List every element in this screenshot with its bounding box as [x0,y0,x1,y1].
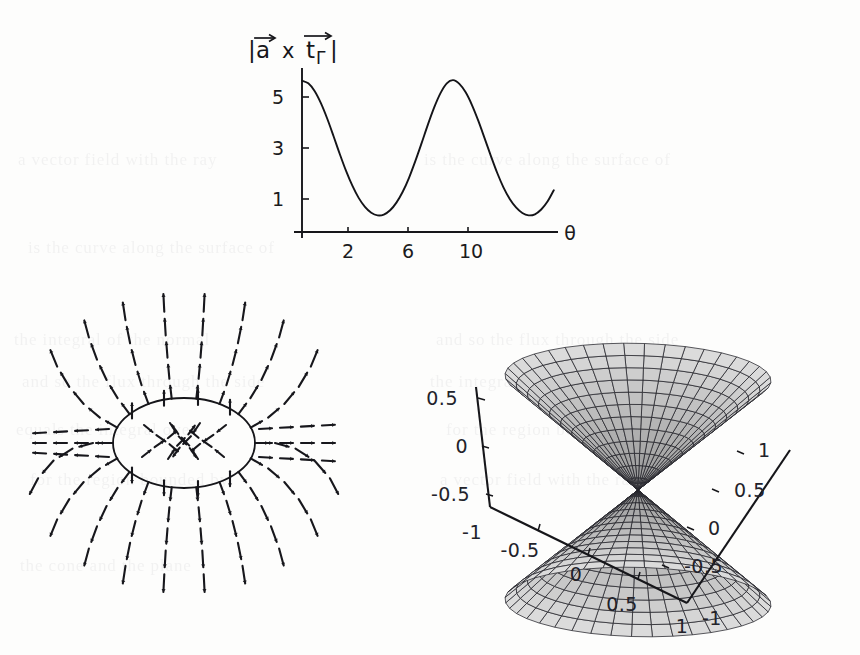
mesh-quad [606,554,626,561]
mesh-quad [631,417,642,429]
mesh-quad [612,542,629,549]
vector-arrow-head [166,518,170,521]
vector-arrow-head [311,424,314,428]
vector-arrow-head [165,342,169,345]
mesh-quad [632,624,653,637]
vector-arrow-head [96,454,99,458]
vector-arrow-head [228,484,232,487]
y-tick-label: 5 [272,86,284,108]
plot-title-vector-t: t [306,37,315,63]
y-tick-label: 3 [272,137,284,159]
mesh-quad [584,344,607,357]
surface-3d-svg: 0.5 0 -0.5 -1 -0.5 0 0.5 1 -1 -0.5 0 0.5… [390,285,860,655]
vector-arrow-head [290,425,293,429]
x-axis-label-theta: θ [564,222,576,244]
mesh-quad [641,529,654,536]
ghost-line: a vector field with the ray [18,150,217,170]
x-tick-label: 2 [342,240,354,262]
data-curve [302,80,554,215]
vector-arrow-head [33,451,36,455]
mesh-quad [624,343,645,356]
vector-arrow-head [269,441,272,445]
y-tick-label: -1 [702,607,722,629]
x-tick-label: 6 [402,240,414,262]
mesh-quad [615,392,630,405]
y-tick-label: 1 [758,439,771,461]
y-tick-label: 1 [272,188,284,210]
vector-arrow-head [163,319,167,322]
x-tick-label: 10 [459,240,483,262]
plot-axes [294,68,558,238]
vector-arrow-head [332,423,335,427]
vector-arrow-head [198,365,202,368]
vector-arrow-head [169,386,173,389]
mesh-quad [628,392,642,404]
vector-arrow-head [290,457,293,461]
figure-line-plot: | a x t Γ | [240,18,590,268]
vector-arrow-head [33,441,36,445]
z-tick-label: 0.5 [426,387,458,409]
mesh-quad [663,345,685,359]
vector-arrow-head [162,589,166,592]
vector-arrow-head [202,294,206,297]
vector-arrow-shaft [330,478,338,494]
mesh-quad [606,355,626,368]
mesh-quad [651,624,673,637]
y-tick-label: 0.5 [734,479,766,501]
double-cone-mesh [505,343,771,637]
vector-arrow-head [130,403,134,406]
x-tick-label: 0.5 [606,593,638,615]
vector-arrow-head [54,452,57,456]
z-tick-label: -1 [462,521,482,543]
mesh-quad [625,554,644,561]
plot-title-cross: x [282,39,294,63]
vector-arrow-head [195,497,199,500]
mesh-quad [644,561,665,569]
mesh-quad [643,356,663,369]
vector-arrow-head [169,497,173,500]
mesh-quad [624,561,645,568]
vector-arrow-head [33,431,36,435]
mesh-quad [641,417,652,430]
plot-title-vector-a: a [256,37,270,63]
mesh-quad [641,405,654,418]
mesh-quad [609,548,627,555]
vector-arrow-head [290,441,293,445]
vector-arrow-head [54,430,57,434]
vector-arrow-head [198,518,202,521]
plot-title-left-bar: | [248,37,256,63]
vector-arrow-head [311,458,314,462]
mesh-quad [627,542,643,549]
z-tick-label: 0 [455,435,468,457]
mesh-quad [630,529,642,536]
x-tick-label: 0 [570,563,583,585]
vector-arrow-head [202,589,206,592]
vector-arrow-head [195,386,199,389]
mesh-quad [631,522,642,529]
vector-arrow-head [228,400,232,403]
vector-arrow-head [163,564,167,567]
mesh-quad [650,612,670,625]
figure-vector-field [10,290,350,640]
vector-arrow-head [200,541,204,544]
mesh-quad [627,380,643,392]
mesh-quad [612,380,629,393]
y-tick-label: 0 [708,517,721,539]
x-tick-label: -0.5 [500,539,539,561]
mesh-quad [611,623,632,636]
vector-arrow-head [130,480,134,483]
vector-arrow-head [75,441,78,445]
scanned-page: a vector field with the ray is the curve… [0,0,860,655]
plot-title-right-bar: | [330,37,338,63]
mesh-quad [630,404,642,416]
vector-arrow-head [162,391,166,394]
line-plot-svg: | a x t Γ | [240,18,590,268]
mesh-quad [626,368,643,380]
mesh-quad [661,357,682,371]
mesh-quad [642,380,658,393]
vector-arrow-head [200,342,204,345]
mesh-quad [644,344,665,357]
vector-arrow-head [166,365,170,368]
vector-arrow-head [96,428,99,432]
plot-title: | a x t Γ | [248,33,338,69]
